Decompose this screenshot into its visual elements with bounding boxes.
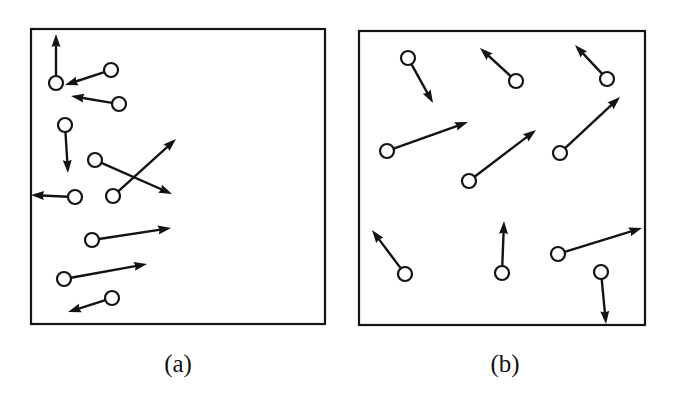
particle <box>105 291 119 305</box>
particle <box>58 118 72 132</box>
particle <box>112 97 126 111</box>
particle <box>85 233 99 247</box>
panel-a <box>31 29 325 324</box>
particle <box>68 190 82 204</box>
particle <box>594 265 608 279</box>
panel-b <box>359 31 645 325</box>
panel-caption-a: (a) <box>164 350 192 378</box>
panel-frame-a <box>31 29 325 324</box>
particle-velocity-figure: (a)(b) <box>0 0 676 399</box>
particle <box>88 153 102 167</box>
velocity-vector-shaft <box>41 195 68 196</box>
particle <box>401 51 415 65</box>
particle <box>57 272 71 286</box>
velocity-vector-shaft <box>502 231 503 266</box>
particle <box>509 74 523 88</box>
particle <box>551 247 565 261</box>
particle <box>495 266 509 280</box>
particle <box>106 189 120 203</box>
particle <box>462 174 476 188</box>
particle <box>380 144 394 158</box>
particle <box>600 72 614 86</box>
particle <box>398 267 412 281</box>
panel-caption-b: (b) <box>490 350 519 378</box>
particle <box>553 146 567 160</box>
figure-container: (a)(b) <box>0 0 676 399</box>
particle <box>49 76 63 90</box>
particle <box>104 63 118 77</box>
